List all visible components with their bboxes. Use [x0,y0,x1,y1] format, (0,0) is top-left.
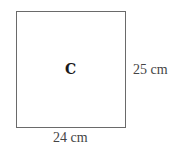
height-dimension-label: 25 cm [133,62,168,78]
width-dimension-label: 24 cm [53,130,88,146]
shape-label: C [65,61,76,77]
